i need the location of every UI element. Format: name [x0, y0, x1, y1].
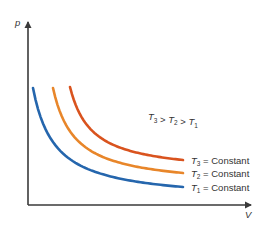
temperature-relation: T3 > T2 > T1: [148, 111, 198, 129]
isotherm-curve-t1: [33, 88, 183, 187]
pv-isotherm-diagram: p V T3 > T2 > T1 T3 = ConstantT2 = Const…: [0, 0, 271, 225]
x-axis-label: V: [245, 209, 253, 220]
curve-labels: T3 = ConstantT2 = ConstantT1 = Constant: [191, 155, 250, 195]
isotherm-curves: [33, 87, 183, 187]
curve-label-t3: T3 = Constant: [191, 155, 250, 168]
relation-subscript: 1: [194, 122, 198, 129]
relation-operator: >: [157, 114, 168, 125]
relation-operator: >: [178, 116, 189, 127]
curve-label-t2: T2 = Constant: [191, 168, 250, 181]
y-axis-label: p: [14, 17, 20, 28]
curve-label-t1: T1 = Constant: [191, 182, 250, 195]
